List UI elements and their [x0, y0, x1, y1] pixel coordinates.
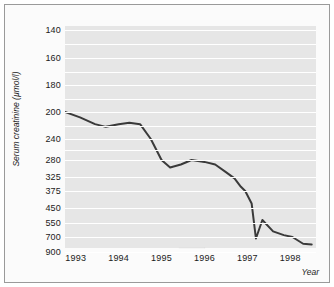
- x-tick-1994: 1994: [108, 253, 129, 263]
- gridline: [65, 160, 316, 161]
- x-axis-tick-labels: 199319941995199619971998: [61, 253, 323, 267]
- gridline: [65, 72, 316, 73]
- gridline: [65, 177, 316, 178]
- gridline: [65, 44, 316, 45]
- y-tick-200: 200: [45, 107, 61, 117]
- gridline: [65, 58, 316, 59]
- gridline: [65, 208, 316, 209]
- gridline: [65, 139, 316, 140]
- y-axis-tick-labels: 140160180200240280325375450550700900: [23, 26, 61, 248]
- data-line-series: [65, 26, 316, 248]
- gridline: [65, 237, 316, 238]
- gridline: [65, 112, 316, 113]
- x-axis-title: Year: [302, 267, 320, 277]
- gridline: [65, 150, 316, 151]
- y-tick-180: 180: [45, 80, 61, 90]
- gridline: [65, 30, 316, 31]
- gridline: [65, 126, 316, 127]
- y-tick-450: 450: [45, 203, 61, 213]
- gridline: [65, 191, 316, 192]
- gridline: [65, 85, 316, 86]
- serum-creatinine-line: [65, 112, 312, 245]
- gridline: [65, 99, 316, 100]
- y-tick-160: 160: [45, 53, 61, 63]
- y-axis-title-text: Serum creatinine (µmol/l): [11, 72, 21, 167]
- x-tick-1997: 1997: [237, 253, 258, 263]
- x-axis-line: [61, 248, 323, 249]
- y-tick-375: 375: [45, 186, 61, 196]
- y-axis-title: Serum creatinine (µmol/l): [9, 26, 23, 248]
- y-tick-240: 240: [45, 134, 61, 144]
- x-tick-1996: 1996: [194, 253, 215, 263]
- y-tick-325: 325: [45, 172, 61, 182]
- gridline: [65, 223, 316, 224]
- x-tick-1993: 1993: [65, 253, 86, 263]
- y-tick-140: 140: [45, 25, 61, 35]
- y-tick-550: 550: [45, 218, 61, 228]
- y-tick-700: 700: [45, 232, 61, 242]
- y-tick-900: 900: [45, 247, 61, 257]
- plot-area: [65, 26, 316, 248]
- x-tick-1995: 1995: [151, 253, 172, 263]
- y-tick-280: 280: [45, 155, 61, 165]
- x-tick-1998: 1998: [280, 253, 301, 263]
- chart-frame: Serum creatinine (µmol/l) 14016018020024…: [4, 4, 330, 283]
